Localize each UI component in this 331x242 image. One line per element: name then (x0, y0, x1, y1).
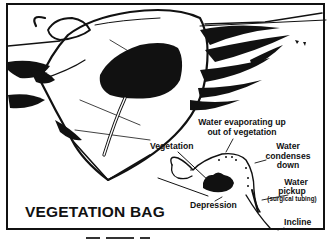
label-water-condenses-line3: down (263, 161, 313, 170)
figure-caption-cropped (86, 237, 236, 242)
figure-title: VEGETATION BAG (25, 204, 165, 220)
label-vegetation: Vegetation (150, 142, 193, 151)
label-water-pickup-line2: pickup (262, 187, 322, 196)
label-water-evaporating-line2: out of vegetation (190, 128, 294, 137)
label-water-evaporating: Water evaporating up out of vegetation (190, 118, 294, 136)
label-depression: Depression (190, 201, 237, 210)
label-water-pickup-line3: (surgical tubing) (262, 196, 322, 202)
label-water-pickup: Water pickup (surgical tubing) (262, 178, 322, 202)
label-water-condenses-line2: condenses (263, 152, 313, 161)
label-water-condenses-line1: Water (263, 142, 313, 151)
label-incline: Incline (284, 218, 311, 227)
figure-canvas: VEGETATION BAG Water evaporating up out … (0, 0, 331, 242)
label-water-evaporating-line1: Water evaporating up (190, 118, 294, 127)
label-water-condenses: Water condenses down (263, 142, 313, 170)
